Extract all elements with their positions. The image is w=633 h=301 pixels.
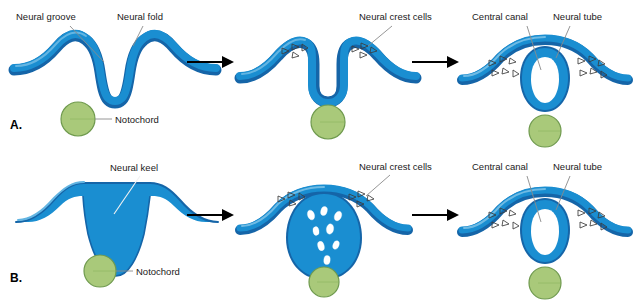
a3-central-canal — [531, 57, 559, 103]
label-neural-fold: Neural fold — [117, 11, 163, 22]
panel-b-letter: B. — [10, 271, 22, 285]
panel-a-letter: A. — [10, 118, 22, 132]
label-neural-crest-cells-b: Neural crest cells — [359, 161, 432, 172]
label-neural-crest-cells-a: Neural crest cells — [359, 11, 432, 22]
label-central-canal-a: Central canal — [472, 11, 528, 22]
b3-central-canal — [531, 209, 559, 255]
label-neural-tube-a: Neural tube — [553, 11, 602, 22]
neural-tube-formation-figure: A. Neural groove Neural fold Notochord — [0, 0, 633, 301]
label-neural-groove: Neural groove — [16, 11, 76, 22]
label-neural-keel: Neural keel — [110, 162, 158, 173]
label-central-canal-b: Central canal — [472, 161, 528, 172]
label-notochord-b: Notochord — [136, 266, 180, 277]
label-neural-tube-b: Neural tube — [553, 161, 602, 172]
label-notochord-a: Notochord — [115, 114, 159, 125]
